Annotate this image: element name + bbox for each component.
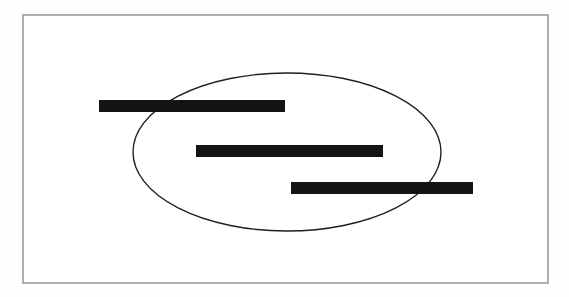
redaction-bar-bottom	[291, 182, 473, 194]
redaction-bar-middle	[196, 145, 383, 157]
figure-container: Scanned diagram with redaction bars	[0, 0, 569, 297]
figure-canvas	[0, 0, 569, 297]
redaction-bar-top	[99, 100, 285, 112]
